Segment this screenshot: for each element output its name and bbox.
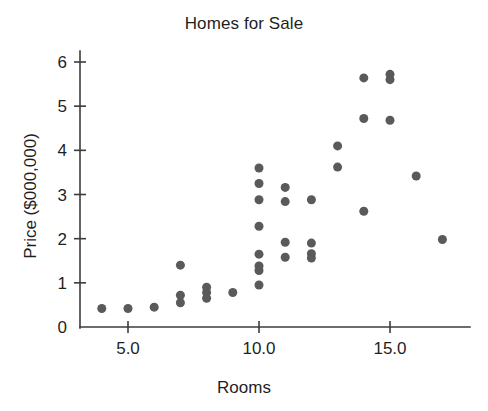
data-point [176, 261, 185, 270]
data-point [307, 195, 316, 204]
x-tick-label: 15.0 [373, 339, 406, 358]
data-point [124, 304, 133, 313]
y-tick-label: 0 [58, 318, 67, 337]
data-point [359, 207, 368, 216]
data-point [333, 141, 342, 150]
y-axis: 0123456 [58, 51, 86, 337]
data-point [333, 163, 342, 172]
data-point [255, 266, 264, 275]
y-tick-label: 1 [58, 274, 67, 293]
data-point [255, 250, 264, 259]
y-tick-label: 3 [58, 186, 67, 205]
y-tick-label: 4 [58, 141, 67, 160]
data-point [202, 294, 211, 303]
data-point [255, 195, 264, 204]
y-tick-label: 5 [58, 97, 67, 116]
data-point [359, 114, 368, 123]
data-point [438, 235, 447, 244]
x-tick-label: 5.0 [116, 339, 140, 358]
x-tick-label: 10.0 [242, 339, 275, 358]
data-point [307, 239, 316, 248]
data-point [386, 116, 395, 125]
data-points-layer [97, 70, 447, 313]
data-point [281, 253, 290, 262]
data-point [359, 73, 368, 82]
y-tick-label: 2 [58, 230, 67, 249]
data-point [150, 303, 159, 312]
scatter-plot-canvas: 0123456 5.010.015.0 Rooms Price ($000,00… [0, 0, 488, 411]
chart-figure: Homes for Sale 0123456 5.010.015.0 Rooms… [0, 0, 488, 411]
data-point [281, 197, 290, 206]
data-point [281, 183, 290, 192]
data-point [228, 288, 237, 297]
x-axis-title: Rooms [217, 378, 271, 397]
data-point [255, 164, 264, 173]
data-point [412, 171, 421, 180]
y-axis-title: Price ($000,000) [21, 133, 40, 259]
data-point [281, 238, 290, 247]
data-point [176, 298, 185, 307]
x-axis: 5.010.015.0 [80, 321, 470, 358]
data-point [255, 179, 264, 188]
data-point [255, 222, 264, 231]
data-point [307, 254, 316, 263]
data-point [386, 75, 395, 84]
y-tick-label: 6 [58, 53, 67, 72]
data-point [255, 281, 264, 290]
data-point [97, 304, 106, 313]
